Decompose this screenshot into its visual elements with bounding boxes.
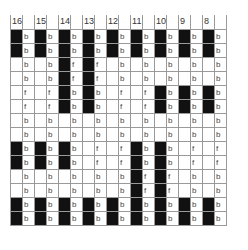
stitch-letter-cell: f <box>95 57 107 71</box>
stitch-letter-cell: b <box>143 71 155 85</box>
header-spacer <box>215 15 227 29</box>
filled-cell <box>203 29 215 43</box>
empty-cell <box>107 127 119 141</box>
filled-cell <box>179 211 191 225</box>
stitch-letter-cell: b <box>167 155 179 169</box>
column-number: 15 <box>35 15 47 29</box>
stitch-letter-cell: b <box>215 169 227 183</box>
empty-cell <box>35 127 47 141</box>
stitch-letter-cell: b <box>47 169 59 183</box>
stitch-letter-cell: b <box>119 197 131 211</box>
column-number: 16 <box>11 15 23 29</box>
stitch-letter-cell: b <box>23 127 35 141</box>
empty-cell <box>83 169 95 183</box>
column-number: 14 <box>59 15 71 29</box>
stitch-letter-cell: b <box>71 155 83 169</box>
stitch-letter-cell: b <box>143 127 155 141</box>
empty-cell <box>179 155 191 169</box>
filled-cell <box>11 155 23 169</box>
empty-cell <box>11 57 23 71</box>
stitch-letter-cell: b <box>71 141 83 155</box>
stitch-letter-cell: b <box>191 71 203 85</box>
empty-cell <box>203 71 215 85</box>
stitch-letter-cell: b <box>215 183 227 197</box>
filled-cell <box>11 141 23 155</box>
stitch-letter-cell: b <box>47 183 59 197</box>
filled-cell <box>155 99 167 113</box>
stitch-letter-cell: b <box>167 57 179 71</box>
empty-cell <box>203 183 215 197</box>
filled-cell <box>107 211 119 225</box>
stitch-letter-cell: b <box>143 113 155 127</box>
empty-cell <box>11 113 23 127</box>
filled-cell <box>11 197 23 211</box>
empty-cell <box>131 99 143 113</box>
empty-cell <box>131 57 143 71</box>
stitch-letter-cell: b <box>143 29 155 43</box>
stitch-letter-cell: f <box>47 85 59 99</box>
filled-cell <box>203 99 215 113</box>
stitch-letter-cell: b <box>71 127 83 141</box>
stitch-letter-cell: f <box>167 183 179 197</box>
empty-cell <box>107 71 119 85</box>
header-spacer <box>143 15 155 29</box>
stitch-letter-cell: b <box>47 29 59 43</box>
stitch-letter-cell: f <box>119 155 131 169</box>
filled-cell <box>131 29 143 43</box>
stitch-letter-cell: f <box>95 71 107 85</box>
header-spacer <box>191 15 203 29</box>
filled-cell <box>203 197 215 211</box>
stitch-letter-cell: b <box>95 85 107 99</box>
stitch-letter-cell: b <box>215 29 227 43</box>
empty-cell <box>203 57 215 71</box>
stitch-letter-cell: b <box>167 29 179 43</box>
stitch-letter-cell: b <box>215 99 227 113</box>
filled-cell <box>131 169 143 183</box>
empty-cell <box>179 71 191 85</box>
empty-cell <box>179 113 191 127</box>
stitch-letter-cell: b <box>119 127 131 141</box>
grid-row: bbffbbbbb <box>11 71 227 85</box>
header-spacer <box>95 15 107 29</box>
empty-cell <box>131 71 143 85</box>
stitch-letter-cell: b <box>23 155 35 169</box>
stitch-letter-cell: b <box>215 43 227 57</box>
empty-cell <box>107 99 119 113</box>
stitch-letter-cell: b <box>143 155 155 169</box>
stitch-letter-cell: b <box>47 197 59 211</box>
column-number: 8 <box>203 15 215 29</box>
stitch-letter-cell: f <box>167 169 179 183</box>
stitch-letter-cell: f <box>191 155 203 169</box>
empty-cell <box>203 127 215 141</box>
filled-cell <box>83 29 95 43</box>
filled-cell <box>155 169 167 183</box>
filled-cell <box>35 141 47 155</box>
grid-row: bbbbbffbb <box>11 183 227 197</box>
filled-cell <box>83 85 95 99</box>
stitch-letter-cell: b <box>191 169 203 183</box>
grid-row: bbbffbbff <box>11 141 227 155</box>
header-spacer <box>119 15 131 29</box>
stitch-letter-cell: b <box>167 43 179 57</box>
stitch-letter-cell: b <box>47 127 59 141</box>
filled-cell <box>179 99 191 113</box>
stitch-letter-cell: f <box>143 183 155 197</box>
stitch-letter-cell: b <box>47 43 59 57</box>
filled-cell <box>107 197 119 211</box>
stitch-letter-cell: b <box>119 71 131 85</box>
filled-cell <box>131 211 143 225</box>
stitch-letter-cell: b <box>143 57 155 71</box>
filled-cell <box>155 197 167 211</box>
grid-row: bbbbbbbbb <box>11 127 227 141</box>
stitch-letter-cell: b <box>167 113 179 127</box>
stitch-letter-cell: b <box>23 197 35 211</box>
stitch-letter-cell: b <box>119 183 131 197</box>
empty-cell <box>83 183 95 197</box>
filled-cell <box>11 29 23 43</box>
filled-cell <box>131 43 143 57</box>
column-header-row: 1615141312111098 <box>11 15 227 29</box>
empty-cell <box>131 113 143 127</box>
stitch-letter-cell: b <box>191 43 203 57</box>
stitch-letter-cell: b <box>71 113 83 127</box>
filled-cell <box>155 155 167 169</box>
